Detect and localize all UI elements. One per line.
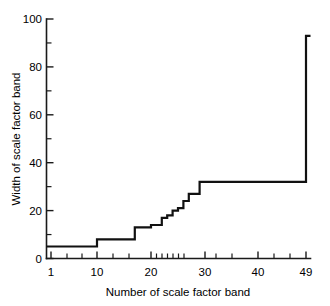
- x-ticklabel-49: 49: [300, 266, 313, 278]
- y-axis-label: Width of scale factor band: [10, 73, 22, 206]
- y-ticklabel-0: 0: [36, 253, 42, 265]
- y-axis-tick-labels: 100 80 60 40 20 0: [23, 13, 42, 265]
- x-ticklabel-40: 40: [252, 266, 265, 278]
- y-ticklabel-40: 40: [29, 157, 42, 169]
- x-axis-tick-labels: 1 10 20 30 40 49: [48, 266, 313, 278]
- step-chart-plot: 100 80 60 40 20 0 1 10 20 30 40 49 Width…: [0, 0, 330, 306]
- x-ticklabel-30: 30: [199, 266, 212, 278]
- x-ticklabel-10: 10: [91, 266, 104, 278]
- axis-lines: [47, 19, 311, 259]
- x-ticklabel-1: 1: [48, 266, 54, 278]
- y-ticklabel-80: 80: [29, 61, 42, 73]
- step-line-scale-factor-band: [47, 36, 311, 247]
- y-ticklabel-20: 20: [29, 205, 42, 217]
- data-series-group: [47, 36, 311, 247]
- chart-figure: 100 80 60 40 20 0 1 10 20 30 40 49 Width…: [0, 0, 330, 306]
- x-ticklabel-20: 20: [145, 266, 158, 278]
- y-ticklabel-100: 100: [23, 13, 42, 25]
- x-axis-label: Number of scale factor band: [106, 286, 250, 298]
- y-ticklabel-60: 60: [29, 109, 42, 121]
